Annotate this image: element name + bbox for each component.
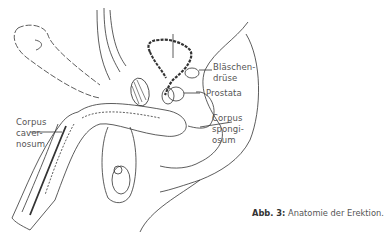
penis-outline — [14, 28, 100, 98]
label-line: osum — [212, 135, 236, 145]
label-line: drüse — [213, 73, 237, 83]
pubic-bone — [129, 77, 152, 108]
label-line: Corpus — [16, 117, 46, 127]
testis — [112, 166, 130, 194]
figure-caption: Abb. 3: Anatomie der Erektion. — [252, 208, 384, 218]
bladder — [148, 40, 191, 95]
label-corpus-cavernosum: Corpuscaver-nosum — [16, 117, 46, 150]
seminal-vesicle — [185, 68, 199, 78]
label-line: caver- — [16, 128, 43, 138]
label-line: Corpus — [212, 113, 242, 123]
label-line: nosum — [16, 139, 45, 149]
label-prostata: Prostata — [206, 88, 242, 99]
caption-text: Anatomie der Erektion. — [285, 208, 383, 218]
label-line: spongi- — [212, 124, 244, 134]
label-corpus-spongiosum: Corpusspongi-osum — [212, 113, 244, 146]
label-line: Bläschen- — [213, 62, 255, 72]
caption-prefix: Abb. 3: — [252, 208, 285, 218]
scrotum — [102, 127, 136, 203]
label-blaeschendruese: Bläschen-drüse — [213, 62, 255, 84]
